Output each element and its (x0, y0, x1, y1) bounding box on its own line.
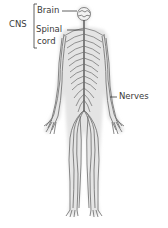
nervous-system-figure (0, 0, 168, 228)
spinal-cord-label-line2: cord (37, 37, 56, 46)
cns-label: CNS (9, 20, 27, 29)
spinal-cord-label-line1: Spinal (36, 25, 62, 34)
brain-label: Brain (37, 6, 59, 15)
nerves-label: Nerves (119, 92, 149, 101)
brain (78, 8, 91, 21)
